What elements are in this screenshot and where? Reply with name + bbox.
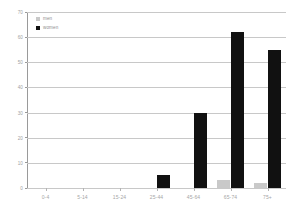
y-tick-mark [25,137,27,138]
plot-area [27,12,286,188]
x-tick-mark [268,188,269,191]
bar-women-25-44 [157,175,170,188]
x-tick-label: 25-44 [150,194,163,200]
y-tick-mark [25,162,27,163]
bar-group [64,12,101,188]
y-tick-label: 10 [18,160,23,165]
y-tick-mark [25,87,27,88]
x-tick-mark [157,188,158,191]
chart-legend: men women [36,15,58,33]
legend-label-women: women [43,25,58,30]
legend-swatch-women-icon [36,26,40,30]
y-tick-mark [25,112,27,113]
bar-chart: 010203040506070 0-45-1415-2425-4445-6465… [0,0,293,211]
x-tick-mark [46,188,47,191]
legend-item-women: women [36,24,58,31]
x-tick-mark [231,188,232,191]
bar-series-group [27,12,286,188]
x-tick-mark [120,188,121,191]
y-tick-label: 50 [18,60,23,65]
bar-group [138,12,175,188]
y-tick-mark [25,62,27,63]
bar-group [212,12,249,188]
legend-item-men: men [36,15,58,22]
x-tick-label: 75+ [263,194,272,200]
bar-group [249,12,286,188]
x-tick-mark [83,188,84,191]
y-tick-mark [25,37,27,38]
bar-group [101,12,138,188]
legend-swatch-men-icon [36,17,40,21]
y-tick-label: 70 [18,10,23,15]
y-tick-mark [25,188,27,189]
x-tick-mark [194,188,195,191]
bar-men-75+ [254,183,267,188]
bar-group [27,12,64,188]
bar-women-45-64 [194,113,207,188]
bar-women-75+ [268,50,281,188]
x-tick-label: 65-74 [224,194,237,200]
x-tick-label: 15-24 [113,194,126,200]
y-tick-label: 40 [18,85,23,90]
x-tick-label: 5-14 [77,194,87,200]
y-tick-label: 60 [18,35,23,40]
legend-label-men: men [43,16,52,21]
x-tick-label: 0-4 [42,194,50,200]
y-tick-mark [25,12,27,13]
bar-men-65-74 [217,180,230,188]
y-tick-label: 20 [18,135,23,140]
bar-women-65-74 [231,32,244,188]
y-tick-label: 30 [18,110,23,115]
x-tick-label: 45-64 [187,194,200,200]
bar-group [175,12,212,188]
y-tick-label: 0 [20,186,23,191]
